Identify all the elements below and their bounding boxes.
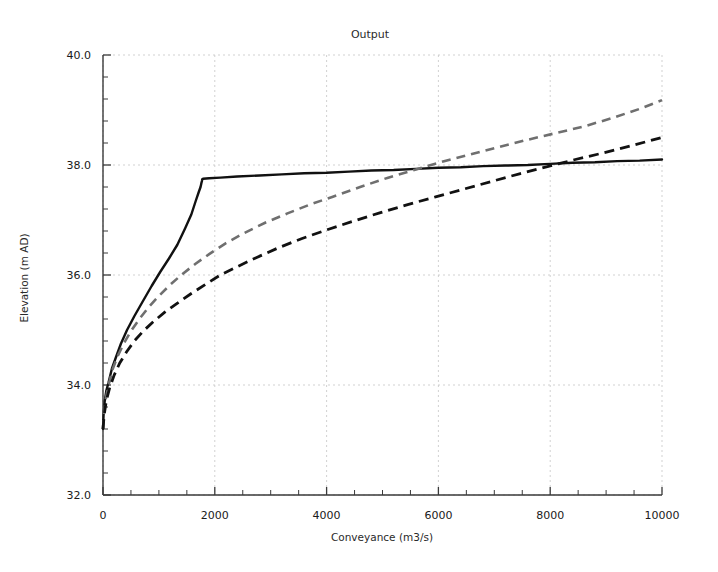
x-tick-label: 4000 — [313, 509, 341, 522]
y-tick-label: 36.0 — [67, 269, 92, 282]
y-tick-label: 32.0 — [67, 489, 92, 502]
output-line-chart: Output 0200040006000800010000 32.034.036… — [0, 0, 718, 572]
y-tick-label: 38.0 — [67, 159, 92, 172]
x-tick-label: 8000 — [536, 509, 564, 522]
x-axis-title: Conveyance (m3/s) — [331, 531, 433, 543]
x-tick-label: 6000 — [424, 509, 452, 522]
chart-title: Output — [351, 28, 390, 41]
x-tick-label: 10000 — [645, 509, 680, 522]
chart-container: Output 0200040006000800010000 32.034.036… — [0, 0, 718, 572]
x-tick-label: 2000 — [201, 509, 229, 522]
y-axis-title: Elevation (m AD) — [18, 233, 30, 322]
y-tick-label: 34.0 — [67, 379, 92, 392]
y-tick-label: 40.0 — [67, 49, 92, 62]
x-tick-label: 0 — [100, 509, 107, 522]
chart-background — [0, 0, 718, 572]
